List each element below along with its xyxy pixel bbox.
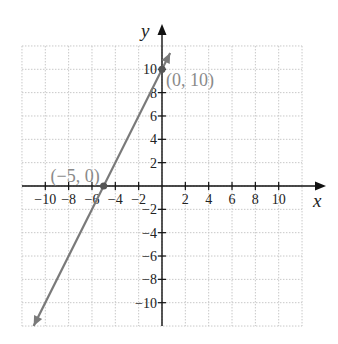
- x-tick-label: 8: [252, 192, 259, 207]
- point-marker: [158, 66, 165, 73]
- y-tick-label: −4: [142, 226, 157, 241]
- x-tick-label: 4: [205, 192, 212, 207]
- x-tick-label: 10: [272, 192, 286, 207]
- y-tick-label: 4: [150, 132, 157, 147]
- y-tick-label: 2: [150, 156, 157, 171]
- y-tick-label: −10: [135, 296, 157, 311]
- point-label: (0, 10): [166, 70, 214, 91]
- y-tick-label: 10: [143, 62, 157, 77]
- x-tick-label: −10: [34, 192, 56, 207]
- x-tick-label: 2: [182, 192, 189, 207]
- y-tick-label: −2: [142, 202, 157, 217]
- y-tick-label: −6: [142, 249, 157, 264]
- y-tick-label: −8: [142, 272, 157, 287]
- x-axis-label: x: [312, 190, 322, 211]
- point-marker: [100, 182, 107, 189]
- y-tick-label: 6: [150, 109, 157, 124]
- point-label: (−5, 0): [51, 166, 100, 187]
- y-axis-arrow-icon: [158, 24, 167, 35]
- coordinate-plane: −10−8−6−4−2246810−10−8−6−4−2246810 (0, 1…: [0, 0, 338, 344]
- x-tick-label: −8: [61, 192, 76, 207]
- y-axis-label: y: [139, 20, 150, 41]
- x-tick-label: 6: [229, 192, 236, 207]
- x-tick-label: −4: [108, 192, 123, 207]
